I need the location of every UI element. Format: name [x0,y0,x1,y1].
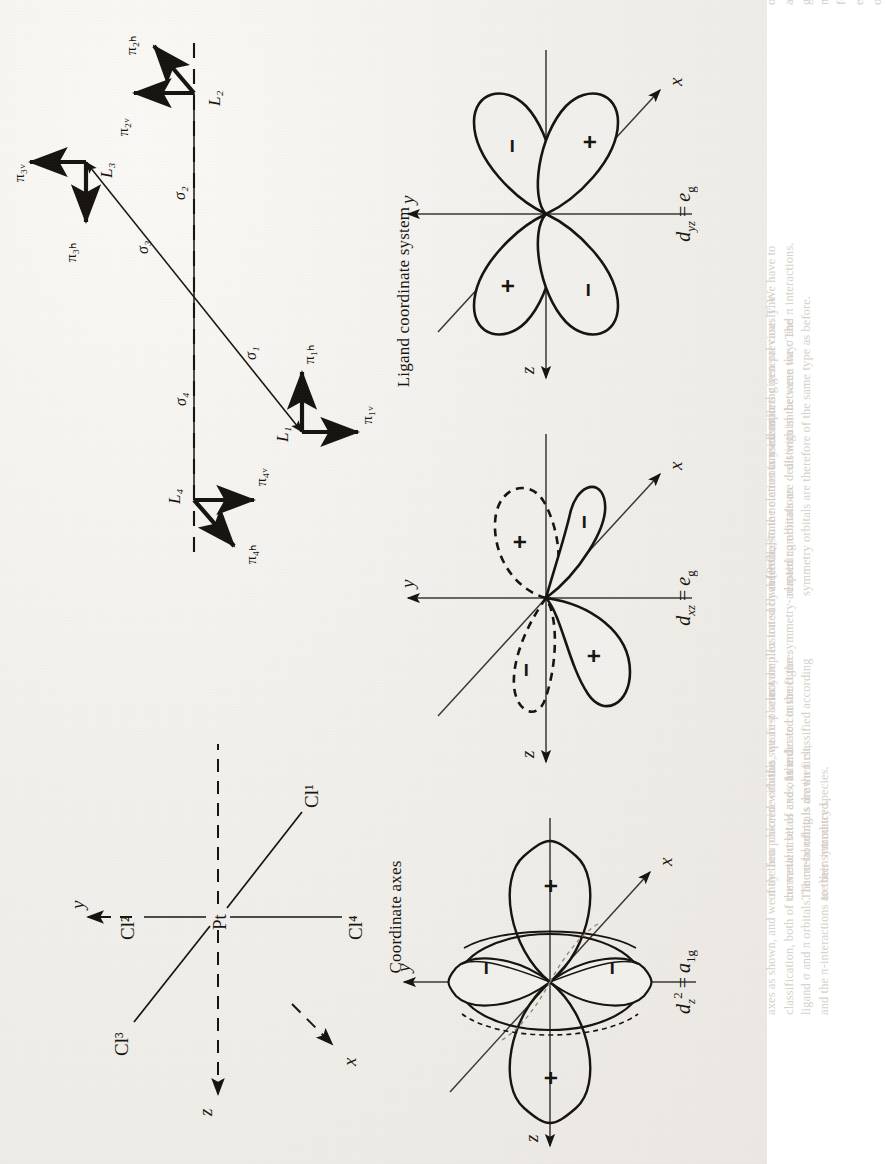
sign-minus-upper-right: − [498,139,525,153]
label-pi1v: π₁ᵥ [358,406,375,424]
label-d: d [672,231,694,242]
sign-minus-front: − [570,515,597,529]
sign-plus-right: + [537,879,564,893]
label-pi2v: π₂ᵥ [114,118,131,136]
label-sigma2: σ₂ [171,186,188,200]
label-sup-2: 2 [670,992,685,999]
ghost-text-block: of the group. In addition the (ns) and t… [763,0,886,5]
ligand-L1-group: L₁ π₁ᵥ π₁ₕ [273,345,375,443]
label-eq: = [672,977,694,988]
sign-minus-rear: − [512,663,539,677]
orbital-label-dxz: dxz=eg [672,570,698,626]
label-L4: L₄ [165,489,184,505]
sign-plus-upper-left: + [494,279,521,293]
figure-ligand-coordinate-system: L₂ π₂ᵥ π₂ₕ L₃ π₃ᵥ π₃ₕ L₄ π₄ᵥ π₄ₕ [8,12,414,582]
figure-orbital-dyz: + − − + z y x dyz=eg [398,44,698,384]
ligand-diagram-svg: L₂ π₂ᵥ π₂ₕ L₃ π₃ᵥ π₃ₕ L₄ π₄ᵥ π₄ₕ [8,12,380,582]
label-symsub: g [683,570,698,577]
axis-label-z: z [195,1108,216,1117]
bond-Pt-Cl3 [134,926,210,1022]
axis-label-y: y [398,963,414,974]
sign-plus-left: + [537,1071,564,1085]
axis-x [292,1004,332,1044]
axis-x-neg [438,598,546,716]
label-symsub: 1g [683,950,698,964]
dyz-lobe-minus-lower-left [538,214,618,335]
sign-minus-lower-left: − [574,283,601,297]
ghost-text-block: of the four chlorine orbitals, we first … [763,380,833,900]
figure-orbital-dz2: + + − − z y x dz2=a1g [398,812,698,1152]
label-L1: L₁ [273,427,292,443]
label-L3: L₃ [97,163,116,179]
sigma1-bond [194,297,302,432]
orbital-label-dyz: dyz=eg [672,186,698,242]
label-sigma1: σ₁ [242,347,259,360]
axis-label-z: z [521,1134,542,1143]
label-sym: e [672,193,694,202]
label-d: d [672,1003,694,1014]
label-Pt: Pt [209,913,230,930]
ligand-L2-group: L₂ π₂ᵥ π₂ₕ [114,36,224,136]
label-pi4v: π₄ᵥ [252,468,269,486]
dxz-lobe-minus-rear [514,598,555,712]
sign-plus-front: + [580,649,607,663]
axis-label-y: y [398,579,418,590]
label-sigma3: σ₃ [134,241,151,254]
axis-label-x: x [655,857,676,867]
sign-minus-bottom: − [598,961,625,975]
label-pi2h: π₂ₕ [122,36,139,55]
svg-text:dyz=eg: dyz=eg [672,186,698,242]
label-L2: L₂ [205,91,224,107]
label-symsub: g [683,186,698,193]
coordinate-axes-svg: Pt Cl² Cl⁴ Cl³ Cl¹ y z x [70,682,370,1152]
orbital-label-dz2: dz2=a1g [670,950,698,1014]
label-pi1h: π₁ₕ [300,345,317,364]
orbital-dyz-svg: + − − + z y x dyz=eg [398,44,698,384]
label-sym: e [672,577,694,586]
ghost-text-block: where the same notation is used as in th… [763,76,816,596]
label-sub-xz: xz [683,605,698,617]
label-Cl1: Cl¹ [301,784,322,808]
axis-label-x: x [665,77,686,87]
label-Cl3: Cl³ [111,1032,132,1056]
axis-label-z: z [517,366,538,375]
label-pi3h: π₃ₕ [62,243,79,262]
axis-label-x: x [339,1057,360,1067]
svg-text:dz2=a1g: dz2=a1g [670,950,698,1014]
bond-Pt-Cl1 [227,812,302,908]
label-Cl2: Cl² [117,916,138,940]
label-eq: = [672,206,694,217]
axis-label-z: z [517,750,538,759]
axis-label-y: y [70,900,88,911]
label-d: d [672,615,694,626]
dyz-lobe-plus-lower-right [538,93,618,214]
figure-coordinate-axes: Pt Cl² Cl⁴ Cl³ Cl¹ y z x Coordinate axes [70,682,406,1152]
sigma3-bond [86,162,194,297]
ghost-text-block: axes as shown, and we may then proceed w… [763,495,833,1015]
label-sym: a [672,963,694,973]
axis-label-x: x [665,461,686,471]
sign-plus-lower-right: + [576,135,603,149]
orbital-dz2-svg: + + − − z y x dz2=a1g [398,812,698,1152]
label-sigma4: σ₄ [172,393,189,406]
ghost-text-block: of a square-planar complex ion such as [… [763,260,798,780]
ligand-L3-group: L₃ π₃ᵥ π₃ₕ [10,162,116,262]
sign-plus-rear: + [506,535,533,549]
label-pi4h: π₄ₕ [242,545,259,564]
svg-text:dxz=eg: dxz=eg [672,570,698,626]
label-Cl4: Cl⁴ [345,915,366,940]
ghost-text-block: considerations given previously. We have… [763,0,798,470]
axis-label-y: y [398,195,418,206]
sign-minus-top: − [472,961,499,975]
pi2h-vector [154,46,194,93]
label-eq: = [672,590,694,601]
orbital-dxz-svg: + − + − z y x dxz=eg [398,428,698,768]
figure-orbital-dxz: + − + − z y x dxz=eg [398,428,698,768]
ghost-text-block: may be illustrated by reference to the e… [763,180,781,700]
ligand-L4-group: L₄ π₄ᵥ π₄ₕ [165,468,269,564]
label-pi3v: π₃ᵥ [10,164,27,182]
pi4h-vector [194,500,234,546]
